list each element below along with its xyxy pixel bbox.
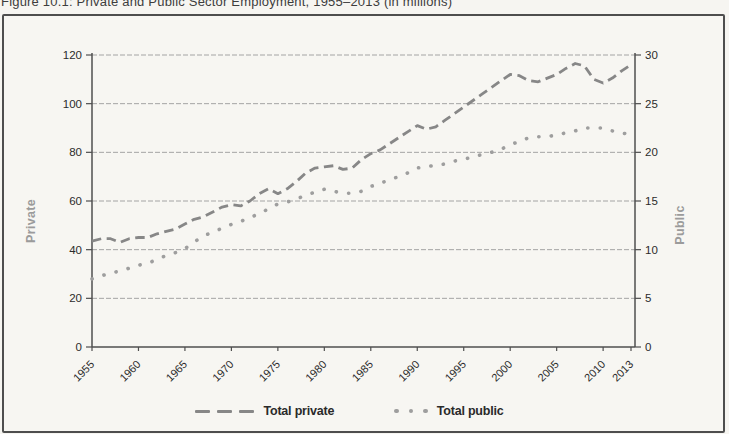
x-axis-tick-label: 1975 <box>256 358 282 384</box>
right-axis-tick-label: 0 <box>645 341 651 353</box>
right-axis-tick-label: 5 <box>645 292 651 304</box>
x-axis-tick-label: 1970 <box>210 358 236 384</box>
x-axis-tick-label: 1990 <box>396 358 422 384</box>
right-axis-title: Public <box>673 199 687 251</box>
dashed-line-sample-icon <box>195 410 254 413</box>
legend-item-total-public: Total public <box>394 404 503 418</box>
x-axis-tick-label: 2000 <box>489 358 515 384</box>
x-axis-tick-label: 1965 <box>164 358 190 384</box>
left-axis-title: Private <box>24 193 38 249</box>
left-axis-tick-label: 20 <box>69 292 82 304</box>
chart-frame: 0204060801001200510152025301955196019651… <box>2 14 725 433</box>
legend: Total private Total public <box>0 404 709 418</box>
axis-tick-labels: 0204060801001200510152025301955196019651… <box>63 49 658 384</box>
x-axis-tick-label: 1960 <box>117 358 143 384</box>
x-axis-tick-label: 1955 <box>71 358 97 384</box>
axes <box>92 53 635 347</box>
x-axis-tick-label: 2010 <box>582 358 608 384</box>
legend-label-total-public: Total public <box>437 404 504 418</box>
dotted-line-sample-icon <box>394 409 428 414</box>
right-axis-tick-label: 15 <box>645 195 658 207</box>
plot-area: 0204060801001200510152025301955196019651… <box>4 16 723 431</box>
right-axis-tick-label: 30 <box>645 49 658 61</box>
legend-label-total-private: Total private <box>263 404 334 418</box>
left-axis-tick-label: 40 <box>69 244 82 256</box>
left-axis-tick-label: 0 <box>76 341 82 353</box>
total-public-line <box>92 128 631 279</box>
legend-item-total-private: Total private <box>195 404 334 418</box>
x-axis-tick-label: 1995 <box>442 358 468 384</box>
data-series <box>92 64 631 279</box>
x-axis-tick-label: 1985 <box>349 358 375 384</box>
left-axis-tick-label: 60 <box>69 195 82 207</box>
axis-ticks <box>86 55 641 351</box>
x-axis-tick-label: 2013 <box>610 358 636 384</box>
right-axis-tick-label: 10 <box>645 244 658 256</box>
figure-title: Figure 10.1: Private and Public Sector E… <box>1 0 452 9</box>
right-axis-tick-label: 25 <box>645 98 658 110</box>
left-axis-tick-label: 80 <box>69 146 82 158</box>
x-axis-tick-label: 2005 <box>535 358 561 384</box>
left-axis-tick-label: 120 <box>63 49 82 61</box>
x-axis-tick-label: 1980 <box>303 358 329 384</box>
right-axis-tick-label: 20 <box>645 146 658 158</box>
total-private-line <box>92 64 631 243</box>
gridlines <box>92 55 635 298</box>
left-axis-tick-label: 100 <box>63 98 82 110</box>
